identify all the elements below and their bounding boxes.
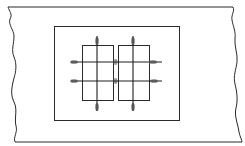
diagram-canvas (0, 0, 245, 146)
inner-frame (55, 27, 180, 121)
strip-right-break-line (232, 7, 242, 142)
crosshair-lines (71, 36, 162, 111)
right-panel (119, 46, 150, 101)
outer-strip (8, 7, 242, 142)
strip-left-break-line (8, 7, 16, 142)
left-panel (83, 46, 114, 101)
